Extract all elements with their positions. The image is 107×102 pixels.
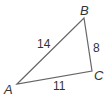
vertex-label-c: C bbox=[94, 68, 104, 83]
triangle-diagram: B C A 14 8 11 bbox=[0, 0, 107, 102]
triangle-abc bbox=[17, 18, 92, 84]
side-length-ab: 14 bbox=[37, 37, 51, 51]
vertex-label-b: B bbox=[80, 3, 89, 18]
side-length-bc: 8 bbox=[93, 41, 100, 55]
vertex-label-a: A bbox=[3, 82, 13, 97]
side-length-ca: 11 bbox=[53, 79, 66, 93]
